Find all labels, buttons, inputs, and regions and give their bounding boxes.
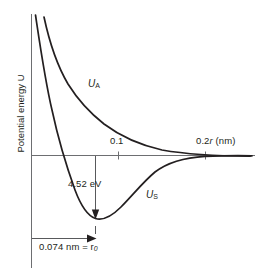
potential-energy-figure: Potential energy U UA US 0.1 0.2r (nm) 4…	[0, 0, 258, 277]
well-depth-label: 4.52 eV	[68, 179, 101, 189]
equilibrium-separation-label: 0.074 nm = r0	[39, 242, 98, 252]
equilibrium-subscript: 0	[94, 245, 98, 252]
curve-label-us: US	[146, 190, 158, 200]
x-axis-right-label: 0.2r (nm)	[196, 136, 235, 146]
curve-label-ua-subscript: A	[95, 82, 100, 89]
x-tick-label-0-1: 0.1	[110, 136, 124, 146]
curve-label-us-subscript: S	[153, 193, 158, 200]
equilibrium-separation-text: 0.074 nm = r	[39, 241, 94, 252]
curve-label-ua: UA	[88, 79, 100, 89]
